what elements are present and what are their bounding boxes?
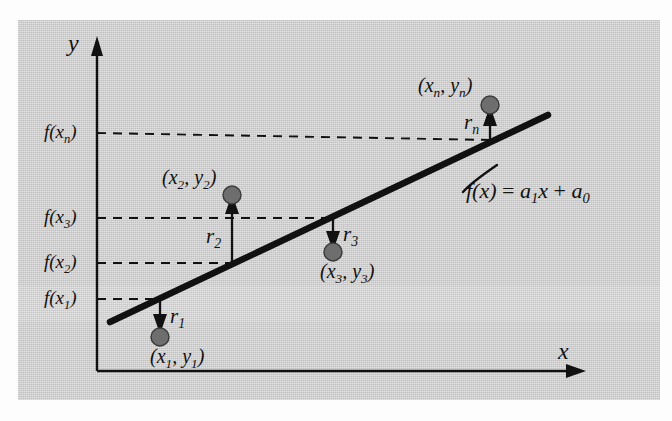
point-label-2: (x2, y2) xyxy=(162,166,216,193)
marker-point-2 xyxy=(223,186,241,204)
tick-guide-lines xyxy=(97,133,492,299)
point-label-n: (xn, yn) xyxy=(418,74,472,101)
guide-f-x-n xyxy=(97,133,492,140)
y-axis-label: y xyxy=(68,30,79,57)
marker-point-n xyxy=(481,96,499,114)
diagram-vector-layer xyxy=(0,0,672,421)
regression-line xyxy=(110,115,548,322)
residual-label-r1: r1 xyxy=(170,304,185,332)
point-label-3: (x3, y3) xyxy=(320,260,374,287)
x-axis-label: x xyxy=(558,338,569,365)
marker-point-3 xyxy=(324,243,342,261)
fit-line-equation: f(x) = a1x + a0 xyxy=(466,178,590,207)
tick-label-f-x-3: f(x3) xyxy=(44,206,77,232)
tick-label-f-x-1: f(x1) xyxy=(44,287,77,313)
residual-label-r2: r2 xyxy=(206,224,221,252)
residual-label-r3: r3 xyxy=(343,222,358,250)
figure-canvas: y x f(xn) f(x3) f(x2) f(x1) (x1, y1) (x2… xyxy=(0,0,672,421)
marker-point-1 xyxy=(151,328,169,346)
y-axis xyxy=(91,36,103,371)
residual-label-rn: rn xyxy=(464,110,479,138)
tick-label-f-x-2: f(x2) xyxy=(44,251,77,277)
point-label-1: (x1, y1) xyxy=(150,345,204,372)
tick-label-f-x-n: f(xn) xyxy=(44,121,77,147)
